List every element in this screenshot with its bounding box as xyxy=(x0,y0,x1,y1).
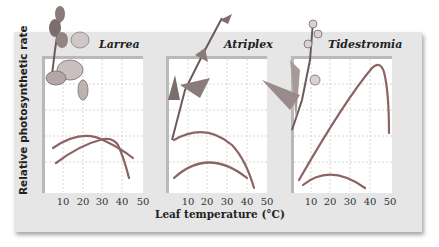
tidestromia-plant-illustration xyxy=(262,20,322,130)
larrea-curve-2 xyxy=(56,139,129,178)
larrea-plant-illustration xyxy=(46,6,89,100)
gridlines xyxy=(45,59,392,192)
tidestromia-curve-2 xyxy=(303,175,365,188)
atriplex-curve-1 xyxy=(174,132,254,188)
atriplex-curve-2 xyxy=(174,163,247,179)
chart-overlay xyxy=(0,0,439,247)
curves xyxy=(53,65,389,188)
atriplex-plant-illustration xyxy=(168,14,232,140)
